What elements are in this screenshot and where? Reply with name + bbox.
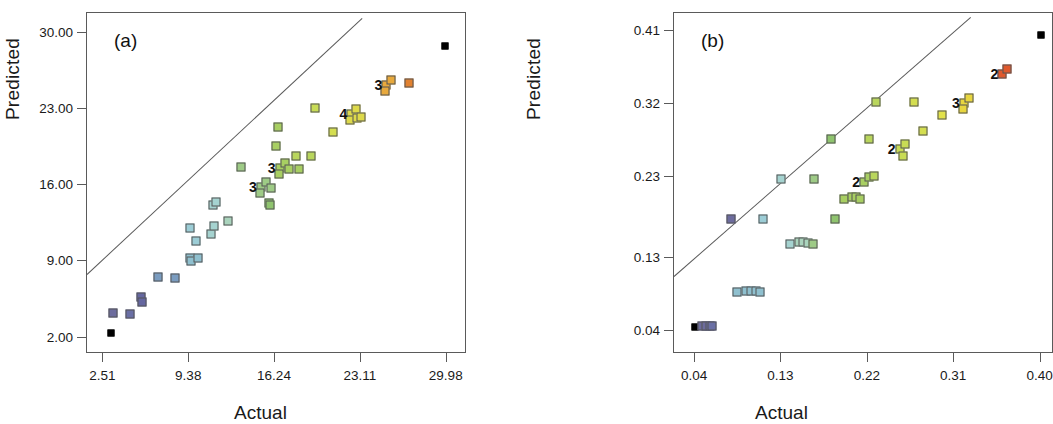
y-axis-tick: [77, 108, 86, 109]
y-axis-tick-label: 0.41: [634, 22, 660, 37]
data-point: [294, 165, 303, 174]
data-point: [831, 215, 840, 224]
y-axis-tick-label: 0.04: [634, 323, 660, 338]
y-axis-tick-label: 0.32: [634, 95, 660, 110]
data-point: [291, 151, 300, 160]
panel-b-plot-area: 2232: [673, 12, 1053, 353]
y-axis-tick: [77, 184, 86, 185]
x-axis-tick: [188, 353, 189, 362]
data-point: [154, 273, 163, 282]
data-point: [170, 273, 179, 282]
data-point: [919, 126, 928, 135]
y-axis-tick-label: 30.00: [39, 24, 73, 39]
x-axis-tick-label: 23.11: [343, 368, 376, 383]
data-point: [871, 98, 880, 107]
x-axis-tick: [446, 353, 447, 362]
y-axis-tick: [77, 260, 86, 261]
x-axis-tick-label: 0.31: [940, 368, 966, 383]
data-point: [328, 128, 337, 137]
data-point: [193, 253, 202, 262]
data-point: [726, 215, 735, 224]
data-point: [306, 152, 315, 161]
x-axis-tick-label: 29.98: [429, 368, 463, 383]
overlap-count-label: 3: [952, 95, 960, 111]
y-axis-tick: [664, 103, 673, 104]
data-point: [311, 104, 320, 113]
overlap-count-label: 3: [268, 160, 276, 176]
x-axis-tick: [780, 353, 781, 362]
x-axis-tick: [360, 353, 361, 362]
data-point: [284, 164, 293, 173]
overlap-count-label: 4: [340, 106, 348, 122]
x-axis-tick: [102, 353, 103, 362]
y-axis-tick: [664, 330, 673, 331]
extreme-point: [1037, 31, 1044, 38]
data-point: [809, 239, 818, 248]
x-axis-tick: [953, 353, 954, 362]
data-point: [191, 236, 200, 245]
panel-a-y-axis-title: Predicted: [2, 38, 24, 120]
data-point: [1003, 64, 1012, 73]
x-axis-tick-label: 9.38: [175, 368, 201, 383]
reference-line: [674, 17, 971, 277]
data-point: [273, 123, 282, 132]
data-point: [909, 98, 918, 107]
data-point: [733, 288, 742, 297]
data-point: [937, 111, 946, 120]
data-point: [899, 151, 908, 160]
data-point: [827, 134, 836, 143]
data-point: [900, 140, 909, 149]
data-point: [209, 221, 218, 230]
data-point: [185, 223, 194, 232]
data-point: [759, 215, 768, 224]
y-axis-tick: [77, 32, 86, 33]
data-point: [357, 113, 366, 122]
x-axis-tick-label: 0.40: [1026, 368, 1052, 383]
data-point: [964, 94, 973, 103]
data-point: [265, 201, 274, 210]
data-point: [387, 75, 396, 84]
data-point: [223, 217, 232, 226]
y-axis-tick-label: 23.00: [39, 100, 73, 115]
panel-b-x-axis-title: Actual: [521, 402, 1042, 424]
data-point: [810, 175, 819, 184]
y-axis-tick-label: 0.13: [634, 250, 660, 265]
data-point: [109, 309, 118, 318]
x-axis-tick-label: 0.13: [767, 368, 793, 383]
data-point: [708, 322, 717, 331]
y-axis-tick: [664, 257, 673, 258]
x-axis-tick: [1040, 353, 1041, 362]
panel-b-letter: (b): [701, 30, 724, 52]
data-point: [212, 198, 221, 207]
data-point: [404, 79, 413, 88]
x-axis-tick-label: 2.51: [89, 368, 115, 383]
data-point: [271, 142, 280, 151]
x-axis-tick-label: 16.24: [257, 368, 291, 383]
overlap-count-label: 2: [990, 66, 998, 82]
panel-a-plot-area: 3343: [86, 12, 466, 353]
data-point: [756, 288, 765, 297]
y-axis-tick: [664, 30, 673, 31]
data-point: [125, 309, 134, 318]
x-axis-tick: [694, 353, 695, 362]
y-axis-tick-label: 0.23: [634, 169, 660, 184]
x-axis-tick: [274, 353, 275, 362]
data-point: [776, 174, 785, 183]
extreme-point: [441, 43, 448, 50]
panel-a: Predicted 3343 30.0023.0016.009.002.002.…: [0, 0, 521, 424]
overlap-count-label: 2: [888, 141, 896, 157]
data-point: [237, 163, 246, 172]
overlap-count-label: 3: [375, 77, 383, 93]
data-point: [267, 184, 276, 193]
data-point: [138, 298, 147, 307]
y-axis-tick: [77, 337, 86, 338]
y-axis-tick-label: 9.00: [47, 253, 73, 268]
extreme-point: [107, 329, 114, 336]
x-axis-tick-label: 0.04: [681, 368, 707, 383]
reference-line: [87, 19, 362, 276]
panel-b: Predicted 2232 0.410.320.230.130.040.040…: [521, 0, 1042, 424]
panel-a-letter: (a): [114, 30, 137, 52]
data-point: [864, 134, 873, 143]
y-axis-tick-label: 16.00: [39, 177, 73, 192]
